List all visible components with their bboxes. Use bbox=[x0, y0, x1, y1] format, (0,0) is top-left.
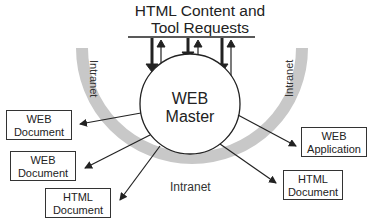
node-web-application: WEB Application bbox=[301, 127, 367, 157]
node-html-document-2: HTML Document bbox=[283, 170, 343, 200]
node-line-1: WEB bbox=[7, 113, 71, 126]
node-web-document-2: WEB Document bbox=[10, 151, 76, 181]
node-html-document-1: HTML Document bbox=[45, 188, 111, 218]
node-line-1: HTML bbox=[284, 173, 342, 186]
node-line-2: Document bbox=[46, 204, 110, 217]
intranet-label-right: Intranet bbox=[283, 60, 295, 97]
intranet-label-bottom: Intranet bbox=[170, 180, 211, 194]
node-line-2: Document bbox=[11, 167, 75, 180]
node-line-1: WEB bbox=[11, 154, 75, 167]
node-web-document-1: WEB Document bbox=[6, 110, 72, 140]
spoke-to-html-document-1 bbox=[120, 146, 160, 200]
spoke-to-html-document-2 bbox=[220, 144, 276, 183]
node-line-2: Document bbox=[7, 126, 71, 139]
node-line-2: Document bbox=[284, 186, 342, 199]
web-master-label: WEB Master bbox=[150, 90, 230, 126]
intranet-label-left: Intranet bbox=[88, 60, 100, 97]
node-line-2: Application bbox=[302, 143, 366, 156]
node-line-1: WEB bbox=[302, 130, 366, 143]
node-line-1: HTML bbox=[46, 191, 110, 204]
master-line-1: WEB bbox=[150, 90, 230, 108]
master-line-2: Master bbox=[150, 108, 230, 126]
